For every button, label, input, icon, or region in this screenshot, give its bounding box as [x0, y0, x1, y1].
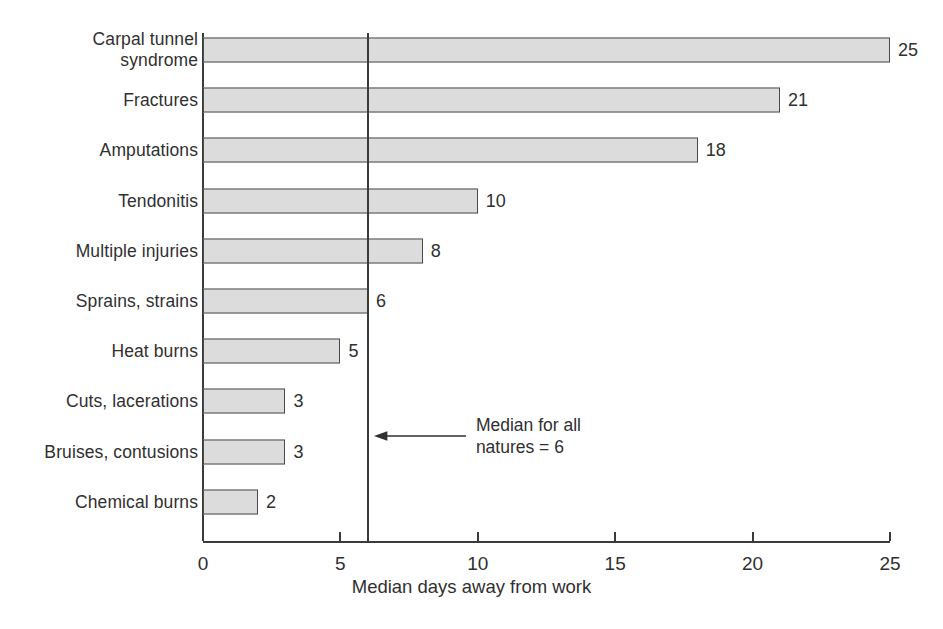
category-label: Heat burns: [0, 341, 198, 362]
bar-value-label: 25: [898, 41, 918, 59]
category-label: Bruises, contusions: [0, 441, 198, 462]
bar-value-label: 8: [431, 242, 441, 260]
category-label: Amputations: [0, 140, 198, 161]
x-axis-tick-label: 0: [198, 554, 209, 573]
category-label: Multiple injuries: [0, 240, 198, 261]
x-axis-tick-label: 5: [335, 554, 346, 573]
bar: [203, 138, 698, 163]
bar: [203, 38, 890, 63]
x-axis-tick: [752, 532, 754, 541]
x-axis-tick: [339, 532, 341, 541]
category-label: Chemical burns: [0, 491, 198, 512]
bar: [203, 238, 423, 263]
x-axis-title: Median days away from work: [0, 576, 943, 598]
bar: [203, 88, 780, 113]
chart-figure: 051015202525Carpal tunnel syndrome21Frac…: [0, 0, 943, 629]
category-label: Fractures: [0, 90, 198, 111]
bar: [203, 289, 368, 314]
bar: [203, 188, 478, 213]
category-label: Sprains, strains: [0, 291, 198, 312]
x-axis-line: [203, 541, 890, 543]
x-axis-tick-label: 10: [467, 554, 488, 573]
category-label: Cuts, lacerations: [0, 391, 198, 412]
median-annotation-label: Median for all natures = 6: [476, 414, 581, 458]
x-axis-tick-label: 25: [879, 554, 900, 573]
bar: [203, 489, 258, 514]
bar: [203, 439, 285, 464]
median-annotation-arrow-icon: [372, 426, 468, 446]
x-axis-tick: [477, 532, 479, 541]
x-axis-tick-label: 20: [742, 554, 763, 573]
bar-value-label: 10: [486, 192, 506, 210]
x-axis-tick-label: 15: [605, 554, 626, 573]
bar-value-label: 6: [376, 292, 386, 310]
category-label: Tendonitis: [0, 190, 198, 211]
bar: [203, 339, 340, 364]
median-reference-line: [367, 33, 369, 541]
bar: [203, 389, 285, 414]
bar-value-label: 18: [706, 141, 726, 159]
x-axis-tick: [889, 532, 891, 541]
bar-value-label: 21: [788, 91, 808, 109]
bar-value-label: 2: [266, 493, 276, 511]
x-axis-tick: [202, 532, 204, 541]
x-axis-tick: [614, 532, 616, 541]
bar-value-label: 5: [348, 342, 358, 360]
plot-area: 051015202525Carpal tunnel syndrome21Frac…: [0, 0, 943, 629]
bar-value-label: 3: [293, 443, 303, 461]
bar-value-label: 3: [293, 392, 303, 410]
category-label: Carpal tunnel syndrome: [0, 29, 198, 71]
